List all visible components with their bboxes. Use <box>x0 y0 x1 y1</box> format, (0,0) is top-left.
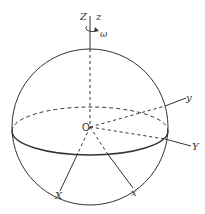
label-y: y <box>185 92 192 103</box>
equator-front <box>12 131 168 155</box>
y-axis-outer <box>165 98 186 106</box>
label-x: x <box>131 187 137 198</box>
label-origin: O <box>82 122 90 133</box>
sphere-diagram: Z z ω O y Y X x <box>0 0 205 214</box>
label-Y: Y <box>192 141 200 152</box>
Y-axis-outer <box>165 139 191 146</box>
x-axis-outer <box>107 153 133 188</box>
label-omega: ω <box>100 29 108 39</box>
label-Z: Z <box>79 11 88 22</box>
Y-axis-inner <box>90 127 165 139</box>
label-z: z <box>95 11 102 22</box>
rotation-arrowhead-icon <box>94 27 99 32</box>
X-axis-outer <box>60 153 78 191</box>
y-axis-inner <box>90 106 165 127</box>
x-axis-inner <box>90 127 107 153</box>
label-X: X <box>54 190 63 201</box>
